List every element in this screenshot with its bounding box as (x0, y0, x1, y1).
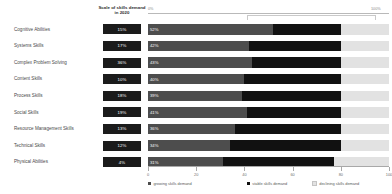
bar-value-label: 40% (150, 74, 158, 84)
bar-segment-declining (341, 41, 389, 51)
chart-row: Complex Problem Solving36%43% (0, 55, 389, 72)
chart-row: Cognitive Abilities15%52% (0, 22, 389, 39)
stacked-bar: 36% (148, 124, 389, 134)
bar-segment-growing (148, 140, 230, 150)
chart-row: Systems Skills17%42% (0, 39, 389, 56)
bar-segment-growing (148, 124, 235, 134)
bar-segment-stable (244, 74, 340, 84)
legend-label: declining skills demand (319, 181, 359, 186)
bar-segment-growing (148, 24, 273, 34)
row-label: Content Skills (14, 76, 42, 81)
bar-segment-declining (341, 124, 389, 134)
bar-segment-growing (148, 57, 252, 67)
stacked-bar: 43% (148, 57, 389, 67)
axis-tick-label: 100 (386, 172, 392, 177)
row-label: Complex Problem Solving (14, 60, 67, 65)
stacked-bar: 39% (148, 91, 389, 101)
legend-swatch-icon (148, 182, 151, 185)
bar-segment-growing (148, 74, 244, 84)
bar-value-label: 42% (150, 41, 158, 51)
row-label: Process Skills (14, 93, 43, 98)
axis-top-left-label: 0% (148, 7, 154, 11)
bar-segment-growing (148, 41, 249, 51)
chart-row: Content Skills10%40% (0, 72, 389, 89)
scale-of-demand-chip: 10% (103, 74, 141, 84)
bar-segment-stable (235, 124, 341, 134)
stacked-bar: 41% (148, 107, 389, 117)
axis-tick (148, 167, 149, 171)
legend-item: stable skills demand (247, 181, 287, 186)
bar-value-label: 36% (150, 124, 158, 134)
bar-value-label: 34% (150, 140, 158, 150)
scale-of-demand-chip: 19% (103, 107, 141, 117)
bar-value-label: 31% (150, 157, 158, 167)
legend-swatch-icon (247, 182, 250, 185)
legend-label: stable skills demand (252, 181, 287, 186)
legend-label: growing skills demand (153, 181, 191, 186)
bar-segment-declining (341, 91, 389, 101)
row-label: Resource Management Skills (14, 126, 74, 131)
bar-segment-stable (249, 41, 341, 51)
bar-value-label: 39% (150, 91, 158, 101)
axis-tick-label: 20 (194, 172, 198, 177)
bar-segment-stable (247, 107, 341, 117)
chart-legend: growing skills demandstable skills deman… (148, 181, 389, 189)
x-axis: 020406080100 (148, 166, 389, 171)
axis-tick-label: 60 (290, 172, 294, 177)
scale-of-demand-chip: 36% (103, 58, 141, 68)
scale-of-demand-chip: 12% (103, 141, 141, 151)
bar-segment-stable (230, 140, 341, 150)
bar-segment-declining (341, 74, 389, 84)
bar-segment-declining (341, 140, 389, 150)
legend-item: declining skills demand (312, 181, 359, 186)
chart-row: Technical Skills12%34% (0, 138, 389, 155)
stacked-bar: 42% (148, 41, 389, 51)
legend-swatch-icon (312, 181, 317, 186)
chart-row: Process Skills18%39% (0, 88, 389, 105)
axis-tick-label: 80 (339, 172, 343, 177)
bar-segment-stable (242, 91, 341, 101)
bar-value-label: 41% (150, 107, 158, 117)
legend-item: growing skills demand (148, 181, 192, 186)
scale-of-demand-chip: 13% (103, 124, 141, 134)
bar-segment-growing (148, 107, 247, 117)
scale-of-demand-chip: 17% (103, 41, 141, 51)
stacked-bar: 40% (148, 74, 389, 84)
bar-segment-stable (273, 24, 340, 34)
axis-top-right-label: 100% (371, 7, 381, 11)
axis-tick (389, 167, 390, 171)
axis-tick (196, 167, 197, 171)
row-label: Technical Skills (14, 143, 45, 148)
axis-tick-label: 0 (147, 172, 149, 177)
axis-top-rule (148, 13, 389, 14)
bar-segment-declining (341, 107, 389, 117)
axis-tick-label: 40 (242, 172, 246, 177)
scale-column-header: Scale of skills demand in 2020 (98, 5, 146, 16)
axis-tick (293, 167, 294, 171)
bar-value-label: 52% (150, 24, 158, 34)
axis-tick (341, 167, 342, 171)
bar-segment-growing (148, 91, 242, 101)
stacked-bar: 34% (148, 140, 389, 150)
bar-segment-stable (252, 57, 341, 67)
scale-of-demand-chip: 18% (103, 91, 141, 101)
row-label: Systems Skills (14, 43, 44, 48)
row-label: Social Skills (14, 110, 39, 115)
stacked-bar: 52% (148, 24, 389, 34)
scale-of-demand-chip: 15% (103, 24, 141, 34)
chart-row: Social Skills19%41% (0, 105, 389, 122)
top-bracket (247, 15, 376, 20)
bar-segment-declining (341, 24, 389, 34)
row-label: Physical Abilities (14, 159, 48, 164)
scale-of-demand-chip: 4% (103, 157, 141, 167)
axis-tick (244, 167, 245, 171)
chart-row: Resource Management Skills13%36% (0, 122, 389, 139)
row-label: Cognitive Abilities (14, 27, 50, 32)
bar-value-label: 43% (150, 57, 158, 67)
chart-rows: Cognitive Abilities15%52%Systems Skills1… (0, 22, 389, 171)
bar-segment-declining (341, 57, 389, 67)
